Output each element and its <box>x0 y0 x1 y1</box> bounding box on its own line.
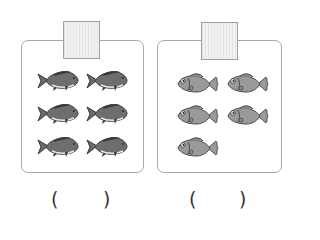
right-label-box[interactable] <box>201 22 238 60</box>
left-answer-open-paren: ( <box>51 190 58 209</box>
right-answer-field[interactable] <box>200 190 240 210</box>
right-answer-close-paren: ) <box>239 190 246 209</box>
dark-fish-icon <box>85 136 129 158</box>
light-fish-icon <box>176 137 220 159</box>
right-answer-open-paren: ( <box>189 190 196 209</box>
dark-fish-icon <box>36 103 80 125</box>
dark-fish-icon <box>85 70 129 92</box>
left-answer-close-paren: ) <box>103 190 110 209</box>
light-fish-icon <box>176 73 220 95</box>
dark-fish-icon <box>85 103 129 125</box>
dark-fish-icon <box>36 70 80 92</box>
dark-fish-icon <box>36 136 80 158</box>
left-answer-field[interactable] <box>62 190 102 210</box>
light-fish-icon <box>226 73 270 95</box>
light-fish-icon <box>176 105 220 127</box>
light-fish-icon <box>226 105 270 127</box>
left-label-box[interactable] <box>63 21 100 59</box>
